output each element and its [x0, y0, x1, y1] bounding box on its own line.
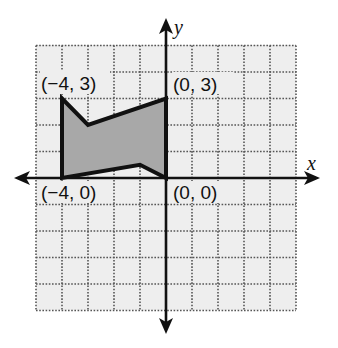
point-label-bottom-left: (−4, 0) [41, 182, 96, 203]
coordinate-plane: y x (−4, 3) (0, 3) (−4, 0) (0, 0) [0, 0, 338, 348]
point-label-top-left: (−4, 3) [41, 73, 96, 94]
point-label-top-right: (0, 3) [173, 74, 217, 95]
point-label-bottom-right: (0, 0) [173, 182, 217, 203]
x-axis-label: x [306, 152, 316, 174]
y-axis-label: y [172, 16, 183, 39]
